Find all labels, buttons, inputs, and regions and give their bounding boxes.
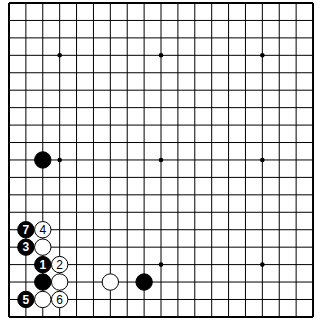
white-stone bbox=[102, 274, 118, 290]
star-point bbox=[159, 158, 164, 163]
star-point bbox=[159, 262, 164, 267]
white-stone bbox=[35, 239, 51, 255]
white-stone bbox=[51, 274, 67, 290]
move-number-label: 3 bbox=[23, 240, 30, 254]
star-point bbox=[260, 158, 265, 163]
star-point bbox=[159, 53, 164, 58]
move-number-label: 6 bbox=[56, 293, 63, 307]
star-point bbox=[57, 53, 62, 58]
black-stone bbox=[35, 152, 51, 168]
move-number-label: 1 bbox=[39, 258, 46, 272]
white-stone: 2 bbox=[51, 256, 67, 272]
white-stone: 4 bbox=[35, 222, 51, 238]
move-number-label: 5 bbox=[23, 293, 30, 307]
move-number-label: 7 bbox=[23, 223, 30, 237]
black-stone: 5 bbox=[18, 291, 34, 307]
move-number-label: 4 bbox=[39, 223, 46, 237]
black-stone bbox=[136, 274, 152, 290]
black-stone: 3 bbox=[18, 239, 34, 255]
white-stone bbox=[35, 291, 51, 307]
black-stone bbox=[35, 274, 51, 290]
white-stone: 6 bbox=[51, 291, 67, 307]
star-point bbox=[57, 158, 62, 163]
black-stone: 1 bbox=[35, 256, 51, 272]
star-point bbox=[260, 262, 265, 267]
go-board: 7431256 bbox=[0, 0, 323, 331]
move-number-label: 2 bbox=[56, 258, 63, 272]
black-stone: 7 bbox=[18, 222, 34, 238]
star-point bbox=[260, 53, 265, 58]
